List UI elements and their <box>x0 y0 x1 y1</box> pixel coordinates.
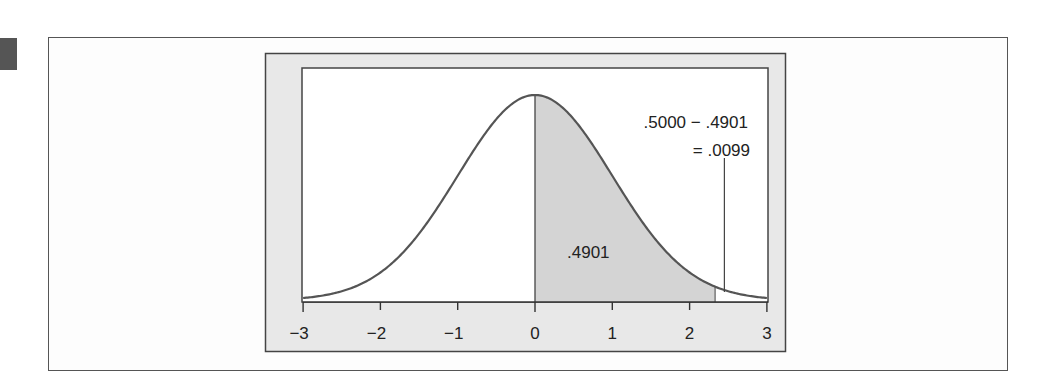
x-tick-label: −1 <box>444 324 463 343</box>
x-tick-label: 3 <box>762 324 771 343</box>
normal-curve-chart: −3−2−10123 .4901 .5000 − .4901 = .0099 <box>0 0 1057 386</box>
x-tick-label: −2 <box>367 324 386 343</box>
x-tick-label: 0 <box>530 324 539 343</box>
x-tick-label: 1 <box>608 324 617 343</box>
x-tick-label: −3 <box>289 324 308 343</box>
shaded-area-label: .4901 <box>567 243 610 262</box>
annotation-line2: = .0099 <box>693 141 750 160</box>
annotation-line1: .5000 − .4901 <box>644 113 748 132</box>
x-tick-label: 2 <box>685 324 694 343</box>
